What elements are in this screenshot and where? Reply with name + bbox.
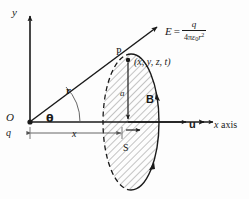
origin-label: O: [6, 112, 14, 123]
surface-S-label: S: [123, 143, 129, 153]
radius-a-label: a: [120, 89, 125, 98]
diagram-canvas: [0, 0, 249, 199]
equation-lhs: E: [165, 26, 172, 37]
x-axis-label: x axis: [214, 120, 237, 130]
point-P-dot: [126, 58, 130, 62]
denominator-r-exponent: 2: [201, 32, 204, 38]
radius-vector-label: r: [66, 85, 71, 96]
x-distance-label: x: [72, 129, 76, 139]
charge-label: q: [6, 128, 11, 138]
velocity-label: u: [189, 119, 196, 130]
electric-field-equation: E = q 4πε0r2: [165, 20, 206, 42]
x-axis-label-suffix: axis: [218, 119, 237, 130]
equation-fraction: q 4πε0r2: [182, 20, 206, 42]
point-P-label: P: [116, 47, 122, 57]
coordinates-label: (x, y, z, t): [134, 57, 171, 67]
y-axis-label: y: [12, 7, 17, 18]
equation-denominator: 4πε0r2: [182, 31, 206, 42]
physics-diagram-figure: y O q θ r x P (x, y, z, t) a B S u x axi…: [0, 0, 249, 199]
magnetic-field-label: B: [146, 94, 154, 105]
equation-numerator: q: [188, 20, 201, 30]
theta-angle-label: θ: [46, 113, 54, 124]
equation-equals-sign: =: [174, 26, 180, 37]
